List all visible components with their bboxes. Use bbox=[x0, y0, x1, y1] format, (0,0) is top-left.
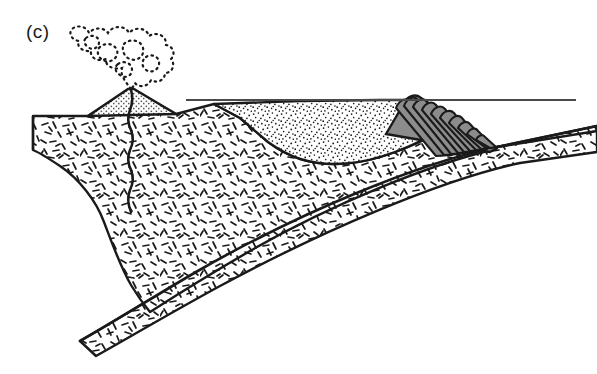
eruption-cloud bbox=[70, 26, 173, 89]
figure-root: (c) bbox=[0, 0, 597, 374]
panel-label: (c) bbox=[26, 22, 49, 41]
cross-section-drawing bbox=[0, 0, 597, 374]
